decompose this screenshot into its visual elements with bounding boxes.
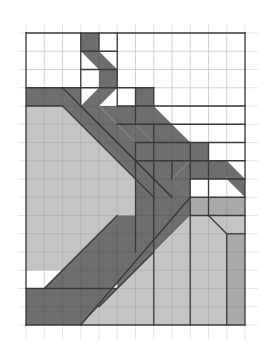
dark-zigzag-2 — [99, 70, 117, 88]
mid-right-column — [227, 234, 245, 325]
tiling-diagram — [0, 0, 272, 347]
dark-top-stem — [81, 33, 99, 51]
light-right-top-strip — [190, 197, 245, 215]
